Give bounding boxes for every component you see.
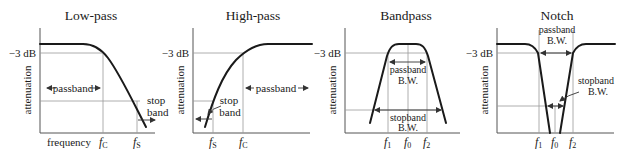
stopband-bw-label-line2: B.W. (588, 86, 608, 97)
stopband-bw-label-line2: B.W. (398, 122, 418, 133)
panel-notch: Notch −3 dB attenuation passband B.W. st… (466, 8, 615, 150)
y-axis-label: attenuation (478, 65, 490, 114)
stopband-label-line1: stop (220, 94, 239, 106)
stopband-label-line2: band (147, 106, 169, 118)
minus-3db-label: −3 dB (466, 47, 493, 59)
panel-low-pass: Low-pass −3 dB attenuation passband stop… (9, 8, 169, 150)
passband-label: passband (256, 82, 297, 94)
freq-mark-f2: f2 (569, 135, 576, 150)
freq-mark-f0: f0 (404, 135, 411, 150)
minus-3db-label: −3 dB (9, 47, 36, 59)
freq-mark-f1: f1 (384, 135, 391, 150)
freq-mark-fc: fC (239, 135, 248, 150)
panel-title: High-pass (226, 8, 281, 23)
minus-3db-label: −3 dB (162, 47, 189, 59)
stopband-pointer-arrow (560, 92, 579, 101)
passband-bw-label-line1: passband (390, 64, 427, 75)
y-axis-label: attenuation (21, 65, 33, 114)
freq-mark-fs: fS (133, 135, 141, 150)
y-axis-label: attenuation (326, 65, 338, 114)
passband-bw-label-line1: passband (539, 24, 576, 35)
minus-3db-label: −3 dB (314, 47, 341, 59)
freq-mark-f0: f0 (551, 135, 558, 150)
panel-title: Notch (541, 8, 574, 23)
filter-types-diagram: Low-pass −3 dB attenuation passband stop… (0, 0, 629, 156)
stopband-label-line1: stop (147, 94, 166, 106)
freq-mark-fs: fS (209, 135, 217, 150)
panel-title: Bandpass (380, 8, 432, 23)
freq-mark-f2: f2 (423, 135, 430, 150)
panel-bandpass: Bandpass −3 dB attenuation passband B.W.… (314, 8, 460, 150)
freq-mark-fc: fC (99, 135, 108, 150)
passband-bw-label-line2: B.W. (398, 75, 418, 86)
notch-response-curve-left (497, 44, 550, 133)
y-axis-label: attenuation (174, 65, 186, 114)
panel-title: Low-pass (65, 8, 118, 23)
stopband-bw-label-line1: stopband (578, 75, 614, 86)
panel-high-pass: High-pass −3 dB attenuation passband sto… (162, 8, 312, 150)
freq-mark-f1: f1 (535, 135, 542, 150)
x-axis-label: frequency (47, 136, 91, 148)
passband-label: passband (53, 82, 94, 94)
passband-bw-label-line2: B.W. (547, 35, 567, 46)
stopband-label-line2: band (219, 106, 241, 118)
